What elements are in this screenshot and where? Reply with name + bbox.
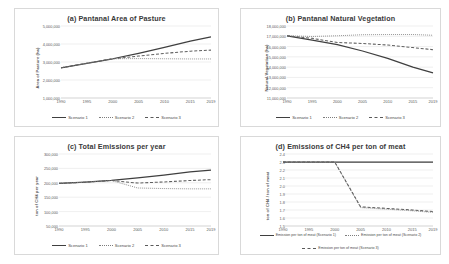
y-tick-label: 13,000,000 [267, 75, 286, 80]
legend-label: Scenario 3 [161, 115, 181, 120]
legend-b: Scenario 1Scenario 2Scenario 3 [241, 115, 440, 120]
legend-item: Scenario 1 [52, 243, 88, 248]
x-axis-ticks-a: 1990199520002005201020152019 [61, 99, 211, 108]
legend-item: Scenario 3 [145, 115, 181, 120]
x-tick-label: 1995 [304, 227, 313, 232]
y-axis-ticks-c: 50,000100,000150,000200,000250,000300,00… [18, 154, 58, 226]
legend-label: Scenario 3 [161, 243, 181, 248]
y-tick-label: 4,000,000 [43, 42, 60, 47]
y-tick-label: 150,000 [44, 195, 58, 200]
legend-label: Emission per ton of meat (Scenario 3) [318, 246, 378, 250]
plot-area-a [61, 26, 211, 98]
legend-item: Emission per ton of meat (Scenario 2) [345, 233, 421, 237]
y-tick-label: 2,000,000 [43, 78, 60, 83]
chart-panel-a: (a) Pantanal Area of Pasture Area of Pas… [14, 8, 219, 127]
legend-swatch-icon [145, 245, 159, 246]
legend-label: Scenario 2 [339, 115, 359, 120]
x-tick-label: 2005 [133, 227, 142, 232]
y-tick-label: 100,000 [44, 209, 58, 214]
chart-title-b: (b) Pantanal Natural Vegetation [241, 14, 440, 23]
x-tick-label: 1990 [55, 227, 64, 232]
legend-swatch-icon [276, 117, 290, 118]
legend-d: Emission per ton of meat (Scenario 1)Emi… [241, 233, 440, 250]
legend-label: Emission per ton of meat (Scenario 1) [276, 233, 336, 237]
y-tick-label: 16,000,000 [267, 44, 286, 49]
x-tick-label: 1995 [81, 227, 90, 232]
series-line-3 [283, 162, 433, 212]
legend-item: Scenario 1 [52, 115, 88, 120]
y-tick-label: 15,000,000 [267, 54, 286, 59]
chart-title-d: (d) Emissions of CH4 per ton of meat [241, 142, 440, 151]
series-line-3 [287, 36, 433, 50]
y-axis-ticks-a: 1,000,0002,000,0003,000,0004,000,0005,00… [20, 26, 60, 98]
legend-swatch-icon [302, 248, 316, 249]
legend-item: Scenario 2 [99, 115, 135, 120]
chart-panel-d: (d) Emissions of CH4 per ton of meat ton… [240, 136, 441, 255]
series-line-1 [61, 37, 211, 68]
x-tick-label: 2005 [356, 227, 365, 232]
legend-item: Emission per ton of meat (Scenario 3) [302, 246, 378, 250]
x-tick-label: 2015 [408, 227, 417, 232]
x-tick-label: 2010 [159, 227, 168, 232]
x-tick-label: 2019 [429, 99, 438, 104]
legend-swatch-icon [369, 117, 383, 118]
x-tick-label: 2005 [134, 99, 143, 104]
y-tick-label: 18,000,000 [267, 24, 286, 29]
chart-panel-b: (b) Pantanal Natural Vegetation Natural … [240, 8, 441, 127]
x-tick-label: 1990 [57, 99, 66, 104]
legend-a: Scenario 1Scenario 2Scenario 3 [15, 115, 218, 120]
x-tick-label: 1990 [283, 99, 292, 104]
x-tick-label: 2015 [186, 99, 195, 104]
x-tick-label: 2000 [108, 99, 117, 104]
y-tick-label: 200,000 [44, 180, 58, 185]
legend-swatch-icon [99, 117, 113, 118]
x-tick-label: 2005 [358, 99, 367, 104]
legend-item: Scenario 2 [99, 243, 135, 248]
legend-label: Scenario 2 [115, 115, 135, 120]
legend-swatch-icon [145, 117, 159, 118]
y-axis-ticks-b: 11,000,00012,000,00013,000,00014,000,000… [246, 26, 286, 98]
y-tick-label: 3,000,000 [43, 60, 60, 65]
x-tick-label: 2010 [383, 99, 392, 104]
figure-four-panel-charts: (a) Pantanal Area of Pasture Area of Pas… [0, 0, 449, 264]
legend-swatch-icon [52, 245, 66, 246]
series-line-1 [59, 170, 211, 183]
x-tick-label: 2019 [207, 227, 216, 232]
legend-swatch-icon [345, 235, 359, 236]
legend-label: Scenario 2 [115, 243, 135, 248]
legend-label: Emission per ton of meat (Scenario 2) [361, 233, 421, 237]
legend-swatch-icon [323, 117, 337, 118]
legend-c: Scenario 1Scenario 2Scenario 3 [15, 243, 218, 248]
x-tick-label: 2000 [333, 99, 342, 104]
plot-area-d [283, 154, 433, 226]
legend-item: Emission per ton of meat (Scenario 1) [260, 233, 336, 237]
legend-label: Scenario 1 [68, 243, 88, 248]
y-tick-label: 300,000 [44, 152, 58, 157]
legend-item: Scenario 3 [369, 115, 405, 120]
x-axis-ticks-c: 1990199520002005201020152019 [59, 227, 211, 236]
x-tick-label: 1995 [308, 99, 317, 104]
y-tick-label: 14,000,000 [267, 65, 286, 70]
x-tick-label: 2019 [429, 227, 438, 232]
y-tick-label: 5,000,000 [43, 24, 60, 29]
series-line-2 [61, 59, 211, 68]
chart-title-c: (c) Total Emissions per year [15, 142, 218, 151]
x-tick-label: 2000 [107, 227, 116, 232]
x-tick-label: 2015 [408, 99, 417, 104]
y-tick-label: 17,000,000 [267, 34, 286, 39]
chart-title-a: (a) Pantanal Area of Pasture [15, 14, 218, 23]
legend-swatch-icon [260, 235, 274, 236]
plot-area-b [287, 26, 433, 98]
x-tick-label: 1990 [279, 227, 288, 232]
x-tick-label: 2019 [207, 99, 216, 104]
y-tick-label: 12,000,000 [267, 85, 286, 90]
chart-panel-c: (c) Total Emissions per year ton of CH4 … [14, 136, 219, 255]
legend-label: Scenario 3 [385, 115, 405, 120]
plot-area-c [59, 154, 211, 226]
x-tick-label: 2000 [330, 227, 339, 232]
x-tick-label: 2010 [160, 99, 169, 104]
y-tick-label: 250,000 [44, 166, 58, 171]
x-tick-label: 1995 [82, 99, 91, 104]
legend-label: Scenario 1 [292, 115, 312, 120]
legend-item: Scenario 3 [145, 243, 181, 248]
